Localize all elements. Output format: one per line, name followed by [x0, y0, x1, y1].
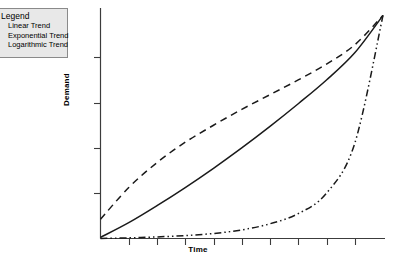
series-line-exponential — [101, 15, 384, 238]
series-line-logarithmic — [101, 15, 384, 219]
plot-area — [0, 0, 396, 261]
y-axis-ticks — [94, 58, 101, 194]
chart-canvas: Legend Linear Trend Exponential Trend Lo… — [0, 0, 396, 261]
series-line-linear — [101, 15, 384, 237]
x-axis-ticks — [130, 239, 356, 246]
